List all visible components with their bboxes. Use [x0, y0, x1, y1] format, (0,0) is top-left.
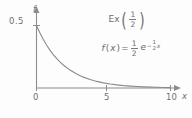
plot-canvas: [0, 0, 192, 118]
pdf-exponent-fraction: 1 2: [152, 40, 156, 52]
pdf-euler-base: e: [141, 43, 147, 52]
pdf-coefficient-numerator: 1: [131, 40, 138, 48]
pdf-open-paren: (: [106, 44, 110, 53]
pdf-formula: f ( x ) = 1 2 e − 1 2 x: [101, 40, 160, 58]
x-axis-arrow-icon: [174, 85, 181, 91]
x-tick-label-0: 0: [33, 93, 38, 102]
y-axis-label: f: [33, 6, 36, 14]
title-fraction: 1 2: [129, 11, 136, 29]
pdf-close-paren: ): [117, 44, 121, 53]
pdf-exponent-variable: x: [157, 43, 161, 49]
pdf-variable: x: [110, 44, 115, 53]
pdf-coefficient-fraction: 1 2: [131, 40, 138, 58]
distribution-title: Ex ( 1 2 ): [108, 11, 146, 29]
title-fraction-denominator: 2: [129, 21, 136, 29]
exponential-distribution-figure: f 0.5 0 5 10 x Ex ( 1 2 ) f ( x ) = 1 2 …: [0, 0, 192, 118]
pdf-function-name: f: [102, 44, 105, 53]
pdf-exponent-minus: −: [147, 43, 152, 49]
title-fraction-numerator: 1: [129, 11, 136, 19]
x-tick-label-10: 10: [166, 93, 177, 102]
pdf-exponent-denominator: 2: [152, 46, 156, 52]
x-tick-label-5: 5: [104, 93, 109, 102]
pdf-coefficient-denominator: 2: [131, 50, 138, 58]
x-axis-label: x: [182, 92, 187, 101]
pdf-exponential-term: e − 1 2 x: [140, 43, 160, 55]
distribution-name: Ex: [109, 15, 120, 24]
pdf-equals-sign: =: [121, 44, 129, 53]
y-tick-label-0.5: 0.5: [9, 17, 24, 26]
pdf-exponent: − 1 2 x: [147, 40, 161, 52]
